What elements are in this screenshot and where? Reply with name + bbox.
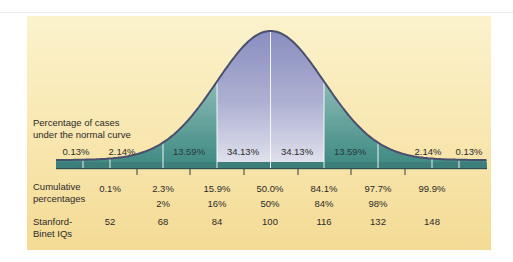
segment-label: 0.13% xyxy=(63,147,90,157)
cumulative-header-line-1: Cumulative xyxy=(33,181,85,193)
segment-label: 13.59% xyxy=(334,147,366,157)
cumulative-value: 15.9% xyxy=(204,184,231,194)
title-line-2: under the normal curve xyxy=(33,129,131,141)
iq-header-line-2: Binet IQs xyxy=(33,228,72,240)
cumulative-rounded: 2% xyxy=(156,199,170,209)
iq-value: 68 xyxy=(158,217,169,227)
segment-label: 2.14% xyxy=(415,147,442,157)
cumulative-value: 2.3% xyxy=(152,184,174,194)
cumulative-value: 99.9% xyxy=(419,184,446,194)
segment-label: 2.14% xyxy=(109,147,136,157)
iq-value: 132 xyxy=(370,217,386,227)
cumulative-rounded: 16% xyxy=(207,199,226,209)
cumulative-header: Cumulative percentages xyxy=(33,181,85,205)
cumulative-rounded: 84% xyxy=(314,199,333,209)
cumulative-value: 0.1% xyxy=(99,184,121,194)
iq-value: 148 xyxy=(424,217,440,227)
chart-title: Percentage of cases under the normal cur… xyxy=(33,117,131,141)
iq-value: 116 xyxy=(316,217,331,227)
segment-label: 13.59% xyxy=(173,147,205,157)
segment-label: 0.13% xyxy=(456,147,483,157)
cumulative-rounded: 98% xyxy=(368,199,387,209)
iq-header-line-1: Stanford- xyxy=(33,216,72,228)
cumulative-value: 97.7% xyxy=(365,184,392,194)
title-line-1: Percentage of cases xyxy=(33,117,131,129)
iq-value: 84 xyxy=(212,217,223,227)
iq-value: 100 xyxy=(262,217,278,227)
iq-value: 52 xyxy=(105,217,116,227)
segment-label: 34.13% xyxy=(227,147,259,157)
segment-label: 34.13% xyxy=(281,147,313,157)
cumulative-value: 84.1% xyxy=(311,184,338,194)
cumulative-rounded: 50% xyxy=(260,199,279,209)
cumulative-value: 50.0% xyxy=(257,184,284,194)
iq-header: Stanford- Binet IQs xyxy=(33,216,72,240)
cumulative-header-line-2: percentages xyxy=(33,193,85,205)
